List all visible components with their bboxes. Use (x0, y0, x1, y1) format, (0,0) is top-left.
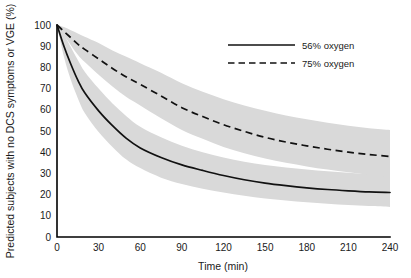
x-tick-label: 60 (135, 242, 147, 253)
y-tick-label: 20 (40, 189, 52, 200)
confidence-bands (57, 25, 390, 207)
y-axis-tick-labels: 0102030405060708090100 (34, 20, 51, 243)
y-tick-label: 40 (40, 147, 52, 158)
x-axis-tick-labels: 0306090120150180210240 (54, 242, 399, 253)
y-tick-label: 90 (40, 41, 52, 52)
legend-label-56-oxygen: 56% oxygen (302, 40, 354, 51)
y-tick-label: 0 (45, 232, 51, 243)
y-tick-label: 30 (40, 168, 52, 179)
x-tick-label: 240 (382, 242, 399, 253)
x-tick-label: 120 (215, 242, 232, 253)
y-tick-label: 70 (40, 83, 52, 94)
y-axis-title: Predicted subjects with no DCS symptoms … (4, 4, 16, 258)
x-tick-label: 210 (340, 242, 357, 253)
x-tick-label: 0 (54, 242, 60, 253)
x-tick-label: 90 (176, 242, 188, 253)
legend: 56% oxygen 75% oxygen (228, 40, 354, 69)
x-tick-label: 150 (257, 242, 274, 253)
line-chart: 0102030405060708090100 03060901201501802… (0, 0, 411, 278)
chart-figure: 0102030405060708090100 03060901201501802… (0, 0, 411, 278)
x-tick-label: 180 (298, 242, 315, 253)
legend-label-75-oxygen: 75% oxygen (302, 58, 354, 69)
y-tick-label: 10 (40, 210, 52, 221)
y-tick-label: 60 (40, 104, 52, 115)
x-tick-label: 30 (93, 242, 105, 253)
x-axis-title: Time (min) (198, 260, 248, 272)
y-tick-label: 80 (40, 62, 52, 73)
y-tick-label: 50 (40, 126, 52, 137)
y-tick-label: 100 (34, 20, 51, 31)
